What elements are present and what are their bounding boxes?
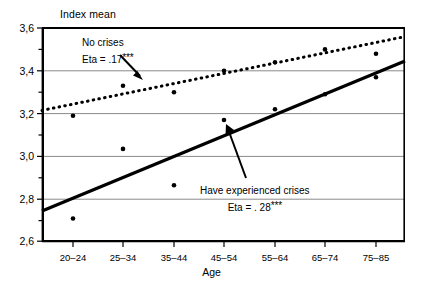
x-axis-ticks (73, 242, 376, 247)
x-tick-label-55-64: 55–64 (247, 252, 303, 263)
x-axis-title: Age (0, 266, 423, 278)
marker-no-crises-75-85 (374, 51, 379, 56)
x-tick-label-20-24: 20–24 (45, 252, 101, 263)
annotation-crises-label: Have experienced crises (200, 183, 310, 198)
annotation-crises-stars: *** (271, 200, 282, 211)
x-tick-label-25-34: 25–34 (95, 252, 151, 263)
marker-crises-65-74 (323, 92, 328, 97)
marker-no-crises-35-44 (172, 90, 177, 95)
chart-figure: Index mean 3,6 3,4 3,2 3,0 2,8 2,6 20–24… (0, 0, 423, 286)
annotation-no-crises-stars: *** (122, 52, 133, 63)
annotation-no-crises-eta-row: Eta = .17*** (82, 50, 133, 67)
x-tick-label-75-85: 75–85 (348, 252, 404, 263)
x-tick-label-45-54: 45–54 (196, 252, 252, 263)
y-tick-label-2-8: 2,8 (0, 193, 34, 205)
chart-canvas (0, 0, 423, 286)
y-tick-label-3-6: 3,6 (0, 22, 34, 34)
annotation-crises-eta-row: Eta = . 28*** (200, 198, 310, 215)
annotation-have-experienced-crises: Have experienced crises Eta = . 28*** (200, 183, 310, 215)
y-tick-label-2-6: 2,6 (0, 235, 34, 247)
annotation-crises-eta: Eta = . 28 (228, 202, 271, 213)
x-tick-label-35-44: 35–44 (146, 252, 202, 263)
marker-crises-25-34 (121, 147, 126, 152)
y-axis-ticks (37, 28, 42, 241)
marker-crises-45-54 (222, 118, 227, 123)
marker-no-crises-20-24 (71, 113, 76, 118)
marker-no-crises-55-64 (273, 60, 278, 65)
y-tick-label-3-4: 3,4 (0, 65, 34, 77)
marker-crises-75-85 (374, 75, 379, 80)
y-axis-title: Index mean (60, 8, 116, 20)
marker-crises-35-44 (172, 183, 177, 188)
y-tick-label-3-0: 3,0 (0, 150, 34, 162)
marker-no-crises-65-74 (323, 47, 328, 52)
y-tick-label-3-2: 3,2 (0, 108, 34, 120)
marker-no-crises-25-34 (121, 84, 126, 89)
annotation-no-crises: No crises Eta = .17*** (82, 35, 133, 67)
annotation-no-crises-label: No crises (82, 35, 133, 50)
annotation-no-crises-eta: Eta = .17 (82, 54, 122, 65)
x-tick-label-65-74: 65–74 (297, 252, 353, 263)
marker-no-crises-45-54 (222, 69, 227, 74)
marker-crises-20-24 (71, 216, 76, 221)
marker-crises-55-64 (273, 107, 278, 112)
